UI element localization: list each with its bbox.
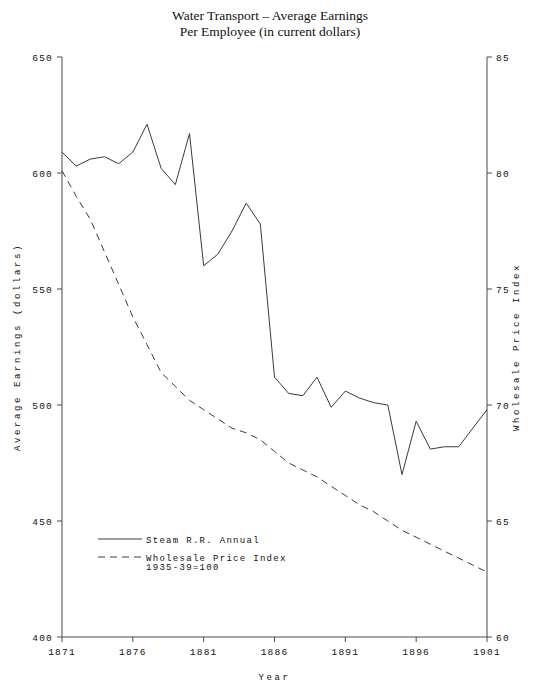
y-axis-left-tick-label: 450: [32, 517, 53, 528]
x-axis-tick-label: 1896: [402, 647, 430, 658]
legend-sublabel-2: 1935-39=100: [146, 563, 220, 573]
x-axis-tick-label: 1876: [119, 647, 147, 658]
series-layer: [62, 124, 487, 572]
chart-svg: 4004505005506006506065707580851871187618…: [0, 0, 540, 696]
y-axis-left-tick-label: 550: [32, 285, 53, 296]
legend-layer: Steam R.R. AnnualWholesale Price Index19…: [98, 536, 287, 573]
y-axis-left-tick-label: 400: [32, 633, 53, 644]
x-axis-title: Year: [258, 673, 290, 683]
y-axis-right-tick-label: 80: [496, 169, 510, 180]
x-axis-tick-label: 1886: [261, 647, 289, 658]
x-axis-tick-label: 1901: [473, 647, 501, 658]
y-axis-right-title: Wholesale Price Index: [512, 263, 522, 431]
legend-label-1: Steam R.R. Annual: [146, 536, 260, 546]
series-line-1: [62, 124, 487, 474]
axes-layer: 4004505005506006506065707580851871187618…: [13, 53, 522, 684]
x-axis-tick-label: 1871: [48, 647, 76, 658]
y-axis-right-tick-label: 75: [496, 285, 510, 296]
x-axis-tick-label: 1881: [190, 647, 218, 658]
y-axis-left-tick-label: 500: [32, 401, 53, 412]
x-axis-tick-label: 1891: [332, 647, 360, 658]
y-axis-left-tick-label: 650: [32, 53, 53, 64]
y-axis-right-tick-label: 60: [496, 633, 510, 644]
y-axis-left-title: Average Earnings (dollars): [13, 243, 23, 451]
y-axis-right-tick-label: 70: [496, 401, 510, 412]
y-axis-right-tick-label: 65: [496, 517, 510, 528]
y-axis-right-tick-label: 85: [496, 53, 510, 64]
chart-root: Water Transport – Average Earnings Per E…: [0, 0, 540, 696]
series-line-2: [62, 171, 487, 572]
y-axis-left-tick-label: 600: [32, 169, 53, 180]
